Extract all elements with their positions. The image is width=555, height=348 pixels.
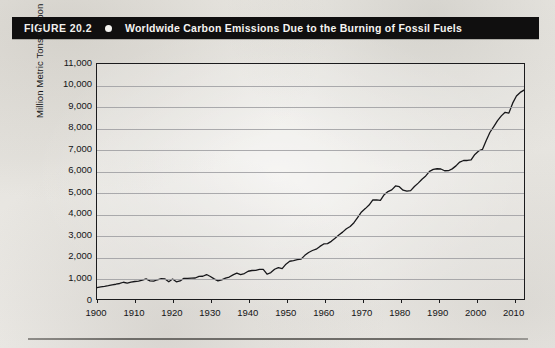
y-tick-6000: 6,000: [46, 164, 92, 175]
gridline: [97, 236, 524, 237]
y-tick-1000: 1,000: [46, 272, 92, 283]
gridline: [97, 129, 524, 130]
plot-area: [96, 63, 525, 300]
x-tick-mark: [135, 299, 136, 303]
gridline: [97, 107, 524, 108]
gridline: [97, 193, 524, 194]
x-tick-mark: [439, 299, 440, 303]
y-axis-tick-labels: 01,0002,0003,0004,0005,0006,0007,0008,00…: [42, 0, 92, 348]
y-tick-8000: 8,000: [46, 121, 92, 132]
x-tick-mark: [211, 299, 212, 303]
y-tick-4000: 4,000: [46, 207, 92, 218]
y-tick-5000: 5,000: [46, 186, 92, 197]
x-tick-mark: [97, 299, 98, 303]
x-tick-mark: [477, 299, 478, 303]
y-tick-3000: 3,000: [46, 229, 92, 240]
x-tick-mark: [401, 299, 402, 303]
line-chart: Million Metric Tons Carbon 01,0002,0003,…: [0, 0, 555, 348]
y-tick-10000: 10,000: [46, 78, 92, 89]
y-tick-9000: 9,000: [46, 100, 92, 111]
y-tick-2000: 2,000: [46, 250, 92, 261]
y-tick-0: 0: [46, 294, 92, 305]
bottom-divider: [28, 338, 528, 340]
gridline: [97, 258, 524, 259]
x-tick-2010: 2010: [491, 307, 537, 318]
x-tick-mark: [515, 299, 516, 303]
figure-container: FIGURE 20.2 Worldwide Carbon Emissions D…: [0, 0, 555, 348]
emissions-series-line: [97, 64, 524, 299]
x-tick-mark: [287, 299, 288, 303]
gridline: [97, 279, 524, 280]
gridline: [97, 172, 524, 173]
gridline: [97, 86, 524, 87]
x-tick-mark: [325, 299, 326, 303]
y-tick-7000: 7,000: [46, 143, 92, 154]
x-tick-mark: [363, 299, 364, 303]
gridline: [97, 150, 524, 151]
x-tick-mark: [173, 299, 174, 303]
y-tick-11000: 11,000: [46, 57, 92, 68]
gridline: [97, 215, 524, 216]
x-tick-mark: [249, 299, 250, 303]
